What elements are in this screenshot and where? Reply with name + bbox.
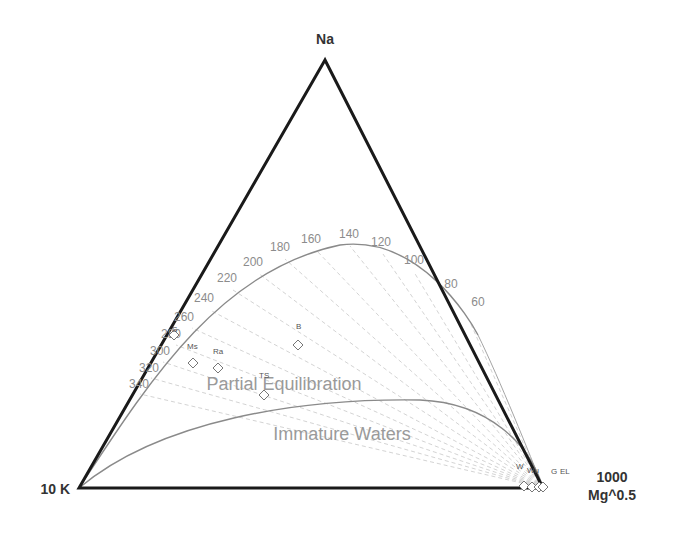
temperature-label: 180 [270, 240, 290, 254]
vertex-label-mg-line2: Mg^0.5 [588, 487, 636, 503]
sample-label: TS [259, 371, 269, 380]
temperature-label: 300 [150, 344, 170, 358]
sample-label: EL [560, 467, 570, 476]
vertex-label-k: 10 K [40, 481, 70, 497]
temperature-label: 200 [243, 255, 263, 269]
temperature-label: 120 [371, 235, 391, 249]
temperature-label: 340 [129, 377, 149, 391]
temperature-label: 60 [471, 295, 485, 309]
ternary-diagram: Na 10 K 1000 Mg^0.5 60801001201401601802… [0, 0, 674, 533]
region-label-partial-equilibration: Partial Equilibration [206, 374, 361, 394]
temperature-label: 320 [139, 361, 159, 375]
sample-label: G [551, 467, 557, 476]
sample-label: Wu [527, 466, 539, 475]
sample-label: Ms [187, 342, 198, 351]
temperature-label: 100 [404, 253, 424, 267]
sample-label: S [172, 325, 177, 334]
region-label-immature-waters: Immature Waters [273, 424, 410, 444]
sample-point: Ms [187, 342, 198, 368]
diamond-marker-icon [188, 358, 198, 368]
vertex-label-mg-line1: 1000 [596, 469, 627, 485]
temperature-label: 140 [339, 227, 359, 241]
sample-label: W [516, 462, 524, 471]
diamond-marker-icon [213, 363, 223, 373]
temperature-label: 220 [217, 271, 237, 285]
sample-point: B [293, 322, 303, 350]
temperature-label: 160 [301, 232, 321, 246]
temperature-label: 260 [174, 310, 194, 324]
sample-label: Ra [213, 347, 224, 356]
vertex-label-na: Na [316, 31, 334, 47]
sample-label: B [296, 322, 301, 331]
diamond-marker-icon [293, 340, 303, 350]
temperature-label: 80 [444, 277, 458, 291]
temperature-label: 240 [194, 291, 214, 305]
